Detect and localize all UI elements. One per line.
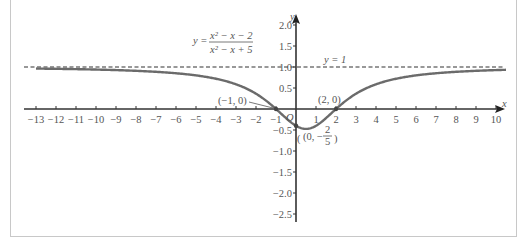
y-tick-label: 1.5 — [279, 41, 292, 52]
y-tick-label: −1.0 — [273, 146, 292, 157]
x-tick-label: −8 — [130, 114, 141, 125]
y-tick-label: 1.0 — [279, 62, 292, 73]
chart-plot: x y −13−12−11−10−9−8−7−6−5−4−3−2−1123456… — [0, 0, 532, 247]
paren-close: ) — [334, 133, 338, 145]
y-tick-label: −1.5 — [273, 167, 292, 178]
x-tick-label: 6 — [413, 114, 418, 125]
x-tick-label: 10 — [491, 114, 502, 125]
point-min-label: (0, − — [303, 131, 323, 143]
x-tick-label: −2 — [250, 114, 261, 125]
equation-numerator: x² − x − 2 — [209, 30, 253, 41]
y-tick-label: 0.5 — [279, 83, 292, 94]
equation-lhs: y = — [192, 35, 207, 46]
x-tick-label: 8 — [453, 114, 458, 125]
y-tick-label: −2.5 — [273, 209, 292, 220]
origin-label: O — [286, 112, 294, 123]
equation-denominator: x² − x + 5 — [209, 44, 252, 55]
y-tick-label: 2.0 — [279, 20, 292, 31]
x-tick-label: −10 — [88, 114, 104, 125]
point-min-den: 5 — [325, 136, 330, 147]
point-min-num: 2 — [325, 124, 330, 135]
asymptote-label: y = 1 — [323, 54, 346, 65]
point-2-label: (2, 0) — [318, 94, 341, 106]
y-tick-label: −0.5 — [273, 125, 292, 136]
equation-label: y = x² − x − 2 x² − x + 5 — [192, 30, 253, 55]
x-tick-label: −9 — [110, 114, 121, 125]
x-tick-label: 5 — [393, 114, 398, 125]
x-tick-label: −4 — [210, 114, 222, 125]
x-tick-label: 9 — [473, 114, 478, 125]
x-tick-label: −11 — [68, 114, 84, 125]
x-tick-label: 3 — [353, 114, 358, 125]
x-tick-label: −13 — [28, 114, 44, 125]
x-tick-label: −1 — [270, 114, 281, 125]
x-tick-label: 4 — [373, 114, 379, 125]
x-tick-label: 2 — [333, 114, 338, 125]
y-tick-label: −2.0 — [273, 188, 292, 199]
x-axis-label: x — [501, 98, 507, 109]
x-tick-label: −3 — [230, 114, 241, 125]
x-tick-label: −5 — [190, 114, 201, 125]
x-tick-label: −6 — [170, 114, 181, 125]
x-tick-label: −12 — [48, 114, 64, 125]
x-tick-label: 7 — [433, 114, 438, 125]
point-neg1-label: (−1, 0) — [218, 95, 247, 107]
x-tick-label: −7 — [150, 114, 161, 125]
paren-open: ( — [297, 133, 301, 145]
